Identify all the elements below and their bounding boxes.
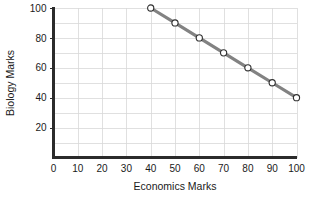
- x-axis-title: Economics Marks: [134, 180, 217, 192]
- data-point: [196, 35, 202, 41]
- x-tick-label: 30: [121, 163, 133, 174]
- data-point: [172, 20, 178, 26]
- y-tick-label: 80: [35, 33, 47, 44]
- data-point: [245, 65, 251, 71]
- data-point: [221, 50, 227, 56]
- y-tick-label: 20: [35, 122, 47, 133]
- chart-canvas: 0102030405060708090100 20406080100 Econo…: [0, 0, 311, 201]
- y-tick-label: 40: [35, 92, 47, 103]
- y-tick-label: 60: [35, 62, 47, 73]
- data-point: [148, 5, 154, 11]
- x-tick-label: 50: [169, 163, 181, 174]
- data-point: [293, 95, 299, 101]
- x-tick-label: 70: [218, 163, 230, 174]
- y-tick-label: 100: [30, 3, 47, 14]
- x-tick-label: 10: [72, 163, 84, 174]
- x-tick-label: 40: [145, 163, 157, 174]
- scatter-line-chart: 0102030405060708090100 20406080100 Econo…: [0, 0, 311, 201]
- data-point: [269, 80, 275, 86]
- y-axis-title: Biology Marks: [4, 50, 16, 116]
- x-tick-label: 80: [242, 163, 254, 174]
- x-tick-label: 90: [267, 163, 279, 174]
- x-tick-label: 60: [194, 163, 206, 174]
- x-tick-label: 0: [51, 163, 57, 174]
- x-tick-label: 20: [97, 163, 109, 174]
- x-tick-label: 100: [288, 163, 305, 174]
